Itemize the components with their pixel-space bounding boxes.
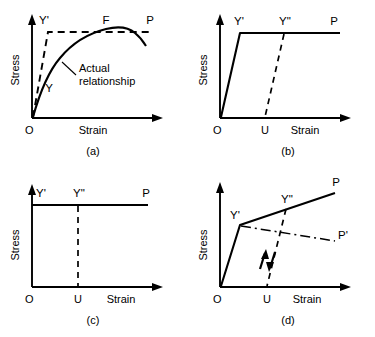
panel-d-softening-path	[241, 226, 335, 241]
panel-b-y-axis	[216, 14, 224, 118]
panel-b-caption: (b)	[281, 145, 294, 157]
panel-c-y-axis-label: Stress	[9, 229, 21, 261]
panel-a-label-f: F	[102, 14, 109, 26]
panel-a-y-axis-label: Stress	[9, 54, 21, 86]
panel-b-label-p: P	[330, 15, 338, 27]
panel-a-caption: (a)	[86, 145, 99, 157]
panel-c-label-p: P	[142, 187, 150, 199]
panel-c: Y' Y" P U O Strain Stress (c)	[0, 169, 187, 337]
panel-d-origin-label: O	[213, 293, 222, 305]
panel-a: Y' F P Y Actual relationship O Strain St…	[0, 0, 187, 168]
panel-b-x-axis-label: Strain	[291, 124, 320, 136]
panel-c-y-axis	[28, 184, 36, 287]
panel-c-label-u: U	[74, 293, 82, 305]
panel-b-origin-label: O	[213, 124, 222, 136]
panel-d-label-u: U	[263, 293, 271, 305]
panel-a-x-axis	[32, 114, 163, 122]
panel-d: Y' Y" P P' U O Strain Stress (d)	[188, 169, 375, 337]
panel-d-unloading-line	[267, 209, 286, 286]
panel-d-y-axis	[216, 182, 224, 287]
panel-c-caption: (c)	[87, 314, 100, 326]
panel-b: Y' Y" P U O Strain Stress (b)	[188, 0, 375, 168]
panel-c-origin-label: O	[25, 293, 34, 305]
panel-a-x-axis-label: Strain	[79, 124, 108, 136]
panel-b-label-y-prime: Y'	[234, 15, 244, 27]
panel-c-x-axis	[32, 283, 163, 291]
panel-d-cyclic-arrows	[260, 249, 275, 272]
panel-b-unloading-line	[265, 34, 284, 117]
panel-d-label-p: P	[332, 176, 340, 188]
stress-strain-figure: Y' F P Y Actual relationship O Strain St…	[0, 0, 375, 337]
panel-a-label-p: P	[146, 14, 154, 26]
panel-d-x-axis	[220, 283, 351, 291]
panel-a-label-y-prime: Y'	[39, 14, 49, 26]
panel-d-x-axis-label: Strain	[293, 293, 322, 305]
panel-a-annotation-line1: Actual	[79, 62, 110, 74]
panel-b-label-y-double-prime: Y"	[279, 15, 291, 27]
panel-c-label-y-prime: Y'	[36, 187, 46, 199]
panel-b-label-u: U	[261, 124, 269, 136]
panel-a-annotation-line2: relationship	[79, 75, 135, 87]
panel-d-caption: (d)	[281, 314, 294, 326]
panel-b-y-axis-label: Stress	[197, 54, 209, 86]
panel-a-label-y: Y	[45, 82, 53, 94]
panel-d-y-axis-label: Stress	[197, 229, 209, 261]
panel-b-x-axis	[220, 114, 351, 122]
panel-d-label-y-prime: Y'	[230, 209, 240, 221]
panel-a-annotation-leader	[62, 62, 76, 75]
panel-d-label-p-prime: P'	[338, 229, 348, 241]
panel-c-label-y-double-prime: Y"	[73, 187, 85, 199]
panel-d-label-y-double-prime: Y"	[281, 193, 293, 205]
panel-d-hardening-path	[221, 193, 335, 286]
panel-c-x-axis-label: Strain	[107, 293, 136, 305]
panel-a-origin-label: O	[25, 124, 34, 136]
